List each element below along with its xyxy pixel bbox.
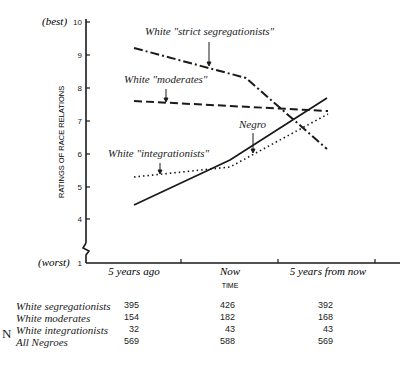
series-integrationists: [134, 114, 328, 177]
cell-5-years-from-now: 43: [303, 324, 333, 334]
cell-now: 182: [205, 312, 235, 322]
tick-label-5: 5: [78, 183, 83, 192]
series-strict-segregationists: [134, 48, 327, 149]
series-moderates: [134, 101, 328, 111]
cell-5-years-from-now: 168: [303, 312, 333, 322]
tick-label-1: 1: [78, 259, 83, 268]
annotation-strict-segregationists: White "strict segregationists": [145, 25, 275, 37]
tick-label-10: 10: [73, 18, 82, 27]
tick-label-9: 9: [78, 51, 83, 60]
x-label-5-years-from-now: 5 years from now: [290, 265, 367, 277]
table-row: White moderates 154 182 168: [0, 312, 417, 324]
row-group: All Negroes: [16, 336, 68, 348]
y-tick-labels: 10 9 8 7 6 5 4 1: [73, 18, 82, 268]
cell-now: 426: [205, 300, 235, 310]
annotation-moderates: White "moderates": [124, 73, 208, 85]
x-label-now: Now: [219, 265, 241, 277]
tick-label-4: 4: [78, 215, 83, 224]
row-group: White segregationists: [16, 300, 111, 312]
tick-label-7: 7: [78, 117, 83, 126]
x-label-5-years-ago: 5 years ago: [108, 265, 160, 277]
cell-5-years-ago: 569: [109, 336, 139, 346]
row-group: White integrationists: [16, 324, 108, 336]
table-row: White integrationists 32 43 43: [0, 324, 417, 336]
y-axis-title: RATINGS OF RACE RELATIONS: [57, 86, 66, 198]
cell-5-years-from-now: 569: [303, 336, 333, 346]
x-tick-labels: 5 years ago Now 5 years from now: [108, 265, 366, 277]
table-row: White segregationists 395 426 392: [0, 300, 417, 312]
x-axis: [86, 259, 400, 263]
cell-5-years-ago: 154: [109, 312, 139, 322]
cell-5-years-ago: 32: [109, 324, 139, 334]
worst-label: (worst): [38, 256, 70, 269]
annotation-negro: Negro: [238, 118, 267, 130]
tick-label-8: 8: [78, 84, 83, 93]
table-row: All Negroes 569 588 569: [0, 336, 417, 348]
cell-now: 588: [205, 336, 235, 346]
cell-5-years-from-now: 392: [303, 300, 333, 310]
annotation-integrationists: White "integrationists": [108, 147, 210, 159]
x-axis-title: TIME: [222, 282, 239, 289]
cell-now: 43: [205, 324, 235, 334]
tick-label-6: 6: [78, 150, 83, 159]
cell-5-years-ago: 395: [109, 300, 139, 310]
best-label: (best): [42, 15, 67, 28]
row-group: White moderates: [16, 312, 90, 324]
